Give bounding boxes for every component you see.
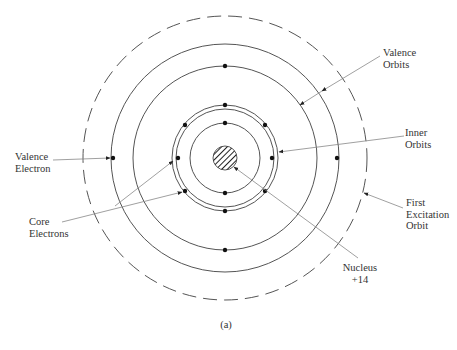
valence-orbits-leader-2: [300, 91, 322, 105]
inner-orbits-leader: [279, 136, 404, 152]
label-line: Inner: [405, 127, 431, 139]
core-electrons-leader-2: [62, 192, 182, 222]
label-line: Valence: [15, 151, 51, 163]
core-electrons-leader-1: [115, 161, 173, 206]
valence-electron-leader: [53, 158, 110, 160]
label-line: Nucleus: [340, 262, 380, 274]
core-electron: [183, 189, 187, 193]
label-line: Excitation: [406, 209, 449, 221]
nucleus-icon: [213, 146, 237, 170]
core-electron: [223, 121, 227, 125]
nucleus-label: Nucleus +14: [340, 262, 380, 285]
core-electrons-label: Core Electrons: [29, 216, 69, 239]
core-electron: [183, 123, 187, 127]
valence-electron: [223, 64, 227, 68]
valence-electron-label: Valence Electron: [15, 151, 51, 174]
label-line: +14: [340, 274, 380, 286]
valence-orbits-label: Valence Orbits: [383, 47, 416, 70]
first-excitation-orbit-label: First Excitation Orbit: [406, 197, 449, 232]
label-line: Electrons: [29, 228, 69, 240]
nucleus-leader: [234, 167, 358, 258]
label-line: Valence: [383, 47, 416, 59]
core-electron: [223, 103, 227, 107]
core-electron: [223, 209, 227, 213]
label-line: Orbit: [406, 220, 449, 232]
figure-caption: (a): [210, 319, 242, 331]
label-line: Orbits: [405, 139, 431, 151]
inner-orbits-label: Inner Orbits: [405, 127, 431, 150]
valence-electron: [111, 156, 115, 160]
valence-electron: [223, 248, 227, 252]
core-electron: [176, 156, 180, 160]
core-electron: [263, 123, 267, 127]
valence-electron: [335, 156, 339, 160]
label-line: Core: [29, 216, 69, 228]
label-line: First: [406, 197, 449, 209]
label-line: Electron: [15, 163, 51, 175]
valence-orbits-leader-1: [322, 56, 380, 91]
label-line: Orbits: [383, 59, 416, 71]
core-electron: [223, 191, 227, 195]
core-electron: [270, 156, 274, 160]
first-excitation-leader: [364, 193, 403, 208]
